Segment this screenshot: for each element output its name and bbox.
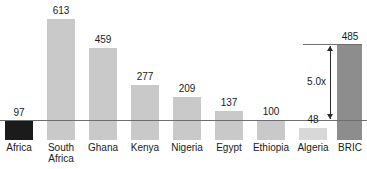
bar-algeria (299, 128, 327, 140)
value-label-nigeria: 209 (167, 83, 207, 94)
value-label-south-africa: 613 (42, 5, 80, 16)
bar-nigeria (173, 97, 201, 140)
category-label-line1: Ghana (88, 142, 118, 153)
category-label-egypt: Egypt (210, 142, 248, 153)
category-label-bric: BRIC (331, 142, 367, 153)
multiple-arrow-head-up (327, 46, 333, 51)
bar-egypt (215, 111, 243, 140)
bar-kenya (131, 85, 159, 140)
category-label-ethiopia: Ethiopia (249, 142, 293, 153)
value-label-ethiopia: 100 (250, 106, 292, 117)
bar-ghana (89, 48, 117, 140)
bar-south-africa (47, 19, 75, 140)
value-label-africa: 97 (0, 107, 38, 118)
category-label-ghana: Ghana (84, 142, 122, 153)
value-label-kenya: 277 (126, 71, 164, 82)
category-label-algeria: Algeria (293, 142, 333, 153)
category-label-africa: Africa (0, 142, 38, 153)
category-label-line1: Kenya (131, 142, 159, 153)
bar-bric (337, 45, 362, 140)
category-label-south-africa: SouthAfrica (42, 142, 80, 164)
value-label-algeria: 48 (293, 114, 333, 125)
category-label-line1: South (48, 142, 74, 153)
category-label-line1: Ethiopia (253, 142, 289, 153)
category-label-kenya: Kenya (126, 142, 164, 153)
bric-reference-line (303, 44, 362, 45)
value-label-bric: 485 (331, 31, 367, 42)
value-label-egypt: 137 (210, 97, 248, 108)
bar-ethiopia (257, 120, 285, 140)
category-label-line1: Africa (6, 142, 32, 153)
multiple-arrow-shaft (330, 46, 331, 119)
multiple-annotation-label: 5.0x (294, 76, 326, 87)
category-label-nigeria: Nigeria (167, 142, 207, 153)
category-label-line1: Algeria (297, 142, 328, 153)
category-label-line2: Africa (42, 153, 80, 164)
bar-africa (5, 121, 33, 140)
value-label-ghana: 459 (84, 34, 122, 45)
category-label-line1: BRIC (338, 142, 362, 153)
category-label-line1: Egypt (216, 142, 242, 153)
bar-chart: 5.0x 9761345927720913710048485 AfricaSou… (0, 0, 367, 169)
category-label-line1: Nigeria (171, 142, 203, 153)
